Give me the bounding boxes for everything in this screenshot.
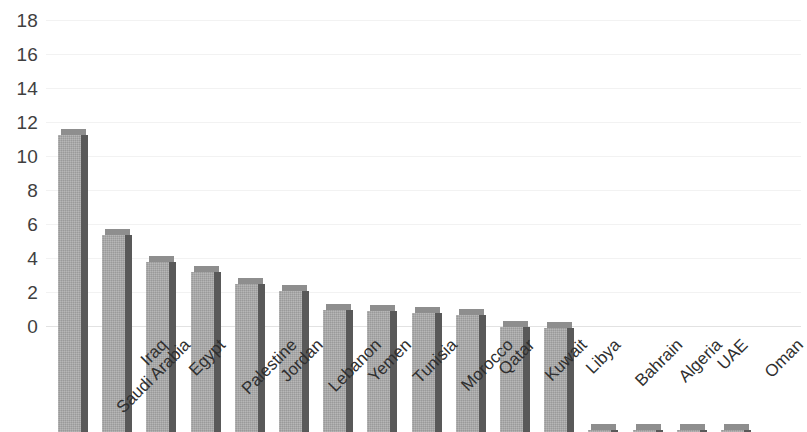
x-axis-tick-label: Kuwait [542,336,590,384]
x-axis-tick-label: Oman [762,336,807,381]
bar-top-face [326,304,351,310]
bar-top-face [238,278,263,284]
gridline [46,88,801,89]
x-axis: Saudi ArabiaIraqEgyptPalestineJordanLeba… [46,336,801,432]
x-axis-tick-label: UAE [714,336,751,373]
y-axis-tick-label: 6 [27,215,38,234]
y-axis-tick-label: 10 [16,147,38,166]
bar-top-face [459,309,484,315]
bar-top-face [105,229,130,235]
x-axis-tick-label: Bahrain [633,336,686,389]
y-axis-tick-label: 8 [27,181,38,200]
bar-top-face [503,321,528,327]
y-axis-tick-label: 18 [16,11,38,30]
gridline [46,156,801,157]
bar-top-face [282,285,307,291]
x-axis-tick-label: Tunisia [410,336,460,386]
y-axis-tick-label: 12 [16,113,38,132]
y-axis-tick-label: 2 [27,283,38,302]
bar-top-face [415,307,440,313]
bar-top-face [194,266,219,272]
bar-top-face [547,322,572,328]
gridline [46,122,801,123]
y-axis-tick-label: 4 [27,249,38,268]
y-axis-tick-label: 16 [16,45,38,64]
x-axis-tick-label: Libya [583,336,624,377]
y-axis-tick-label: 14 [16,79,38,98]
bar-top-face [149,256,174,262]
bar-top-face [370,305,395,311]
y-axis: 181614121086420 [0,0,46,432]
gridline [46,54,801,55]
bar-top-face [61,129,86,135]
gridline [46,224,801,225]
gridline [46,190,801,191]
gridline [46,20,801,21]
y-axis-tick-label: 0 [27,317,38,336]
x-axis-tick-label: Egypt [186,336,229,379]
